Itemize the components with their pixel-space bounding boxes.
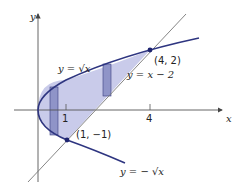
- right-rectangle: [103, 64, 111, 96]
- left-rectangle: [50, 87, 58, 135]
- point-label-1-neg1: (1, −1): [76, 129, 111, 140]
- tick-label-4: 4: [146, 113, 152, 124]
- lower-curve-label: y = − √x: [119, 166, 164, 177]
- line-label: y = x − 2: [126, 69, 174, 80]
- region-diagram: y x 1 4 y = √x y = x − 2 y = − √x (4, 2)…: [0, 0, 245, 192]
- x-axis-label: x: [226, 113, 232, 124]
- point-4-2: [148, 48, 153, 53]
- upper-curve-label: y = √x: [57, 63, 91, 74]
- y-axis-label: y: [29, 11, 36, 22]
- tick-label-1: 1: [62, 113, 68, 124]
- point-label-4-2: (4, 2): [154, 55, 181, 66]
- point-1-neg1: [65, 138, 70, 143]
